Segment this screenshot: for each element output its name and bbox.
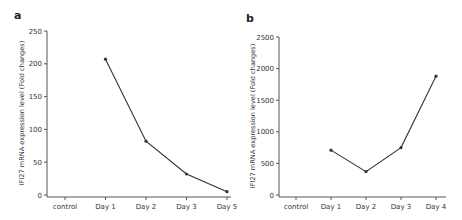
x-tick-label: Day 3	[176, 203, 197, 211]
y-tick-label: 1500	[256, 97, 274, 105]
panel-a: a IFI27 mRNA expression level (Fold chan…	[14, 9, 237, 211]
y-tick-label: 0	[270, 192, 274, 200]
y-tick-label: 500	[261, 160, 274, 168]
data-point	[185, 172, 188, 175]
data-point	[329, 149, 332, 152]
panel-b: b IFI27 mRNA expression level (Fold chan…	[246, 12, 447, 211]
series-line	[331, 76, 436, 171]
y-tick-label: 1000	[256, 128, 274, 136]
y-tick-label: 100	[29, 126, 42, 134]
data-point	[104, 58, 107, 61]
x-tick-label: control	[284, 203, 308, 211]
data-point	[225, 190, 228, 193]
x-tick-label: Day 2	[356, 203, 377, 211]
y-tick-label: 150	[29, 93, 42, 101]
x-tick-label: Day 2	[136, 203, 157, 211]
data-point	[364, 170, 367, 173]
data-point	[434, 75, 437, 78]
panel-label-b: b	[246, 12, 254, 25]
series-line	[106, 59, 228, 192]
x-tick-label: Day 5	[217, 203, 238, 211]
data-point	[144, 140, 147, 143]
x-tick-label: Day 3	[391, 203, 412, 211]
y-tick-label: 50	[33, 159, 42, 167]
y-axis-title-a: IFI27 mRNA expression level (Fold change…	[18, 41, 26, 186]
x-tick-label: Day 4	[426, 203, 447, 211]
y-tick-label: 2000	[256, 65, 274, 73]
y-tick-label: 200	[29, 60, 42, 68]
figure: a IFI27 mRNA expression level (Fold chan…	[0, 0, 462, 220]
x-tick-label: Day 1	[95, 203, 116, 211]
y-tick-label: 0	[38, 192, 42, 200]
x-tick-label: control	[53, 203, 77, 211]
y-tick-label: 250	[29, 28, 42, 36]
panel-label-a: a	[14, 9, 21, 22]
data-point	[399, 146, 402, 149]
x-tick-label: Day 1	[321, 203, 342, 211]
y-tick-label: 2500	[256, 34, 274, 42]
